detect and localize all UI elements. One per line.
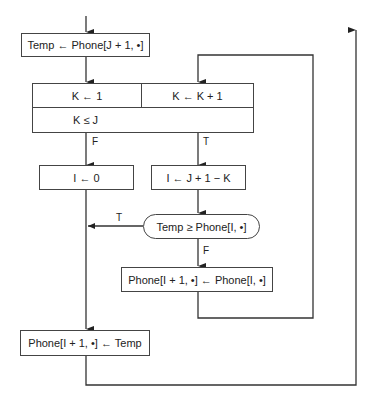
- i-zero-text: I ← 0: [73, 172, 99, 184]
- i-zero-box: I ← 0: [39, 165, 134, 190]
- decision-true-label: T: [116, 212, 122, 223]
- shift-text: Phone[I + 1, •] ← Phone[I, •]: [128, 274, 266, 286]
- i-compute-box: I ← J + 1 − K: [151, 165, 246, 190]
- loop-step-text: K ← K + 1: [172, 90, 222, 102]
- loop-init-text: K ← 1: [72, 90, 103, 102]
- start-assign-text: Temp ← Phone[J + 1, •]: [27, 39, 143, 51]
- i-compute-text: I ← J + 1 − K: [166, 172, 230, 184]
- loop-condition-box: K ≤ J: [32, 107, 254, 133]
- loop-false-label: F: [92, 136, 98, 147]
- decision-false-label: F: [203, 245, 209, 256]
- decision-text: Temp ≥ Phone[I, •]: [157, 221, 247, 233]
- decision-oval: Temp ≥ Phone[I, •]: [143, 214, 260, 239]
- loop-step-box: K ← K + 1: [141, 83, 254, 108]
- loop-true-label: T: [203, 136, 209, 147]
- final-assign-box: Phone[I + 1, •] ← Temp: [20, 330, 150, 356]
- final-assign-text: Phone[I + 1, •] ← Temp: [28, 337, 141, 349]
- shift-box: Phone[I + 1, •] ← Phone[I, •]: [121, 267, 273, 292]
- start-assign-box: Temp ← Phone[J + 1, •]: [21, 33, 150, 57]
- loop-condition-text: K ≤ J: [73, 114, 98, 126]
- loop-init-box: K ← 1: [32, 83, 142, 108]
